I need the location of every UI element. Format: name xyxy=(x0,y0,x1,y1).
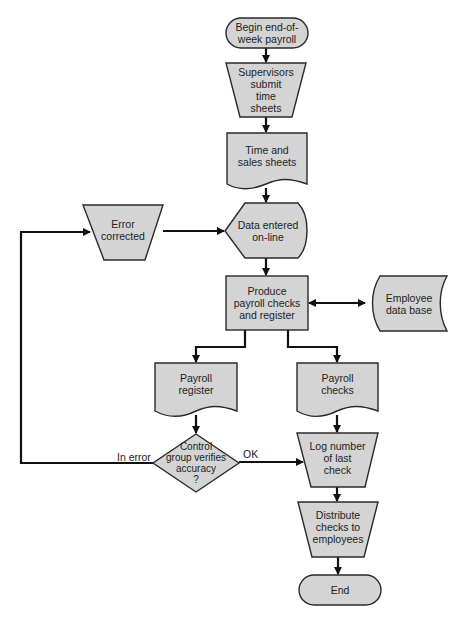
connectors xyxy=(21,48,365,574)
edge-label-ok: OK xyxy=(243,448,258,460)
distribute-label: Distribute checks to employees xyxy=(300,502,376,552)
edge-label-in-error: In error xyxy=(117,451,151,463)
dataentered-label: Data entered on-line xyxy=(232,203,304,258)
edge-produce-payrollchecks xyxy=(288,330,337,362)
timesheets-label: Time and sales sheets xyxy=(227,135,307,177)
edge-controlgroup-errorcorrected xyxy=(21,232,153,463)
produce-label: Produce payroll checks and register xyxy=(226,276,308,330)
errorcorrected-label: Error corrected xyxy=(90,205,156,255)
supervisors-label: Supervisors submit time sheets xyxy=(230,63,302,117)
payrollregister-label: Payroll register xyxy=(155,364,237,404)
employeedb-label: Employee data base xyxy=(376,276,442,331)
payrollchecks-label: Payroll checks xyxy=(297,364,378,404)
controlgroup-label: Control group verifies accuracy ? xyxy=(153,434,239,492)
begin-label: Begin end-of- week payroll xyxy=(226,18,308,48)
lognumber-label: Log number of last check xyxy=(300,433,375,483)
edge-produce-payrollregister xyxy=(196,330,245,362)
end-label: End xyxy=(299,575,381,605)
